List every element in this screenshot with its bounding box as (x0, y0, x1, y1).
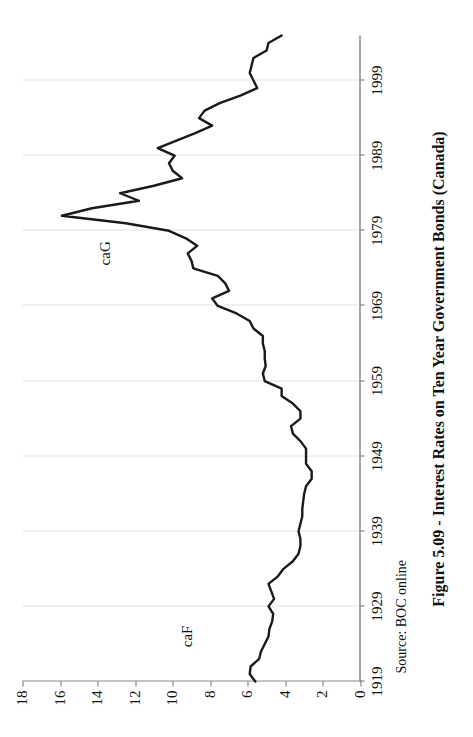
x-axis-tick-label: 1939 (369, 516, 384, 546)
y-axis-tick-label: 18 (15, 690, 30, 705)
x-axis-tick-label: 1989 (369, 140, 384, 170)
x-axis-tick-label: 1949 (369, 441, 384, 471)
series-line-caG (22, 35, 360, 681)
y-axis-tick-label: 6 (240, 690, 255, 698)
y-axis-tick (22, 681, 23, 686)
y-axis-tick-label: 16 (52, 690, 67, 705)
y-axis-tick-label: 14 (90, 690, 105, 705)
y-axis-tick-label: 2 (315, 690, 330, 698)
x-axis-tick-label: 1999 (369, 65, 384, 95)
series-path-caG (61, 35, 311, 681)
x-axis-tick-label: 1929 (369, 591, 384, 621)
figure-title: Figure 5.09 - Interest Rates on Ten Year… (430, 0, 446, 737)
y-axis-tick-label: 0 (353, 690, 368, 698)
y-axis-tick-label: 4 (277, 690, 292, 698)
y-axis-tick-label: 8 (202, 690, 217, 698)
series-annotation-caF: caF (180, 625, 195, 647)
y-axis-tick (247, 681, 248, 686)
rotated-figure-container: 024681012141618 191919291939194919591969… (0, 0, 473, 737)
y-axis-tick (135, 681, 136, 686)
x-axis-tick-label: 1959 (369, 366, 384, 396)
source-note: Source: BOC online (394, 559, 408, 673)
y-axis-tick (285, 681, 286, 686)
y-axis-tick (97, 681, 98, 686)
y-axis-tick-label: 10 (165, 690, 180, 705)
y-axis-tick (172, 681, 173, 686)
y-axis-tick-label: 12 (127, 690, 142, 705)
x-axis-tick-label: 1919 (369, 666, 384, 696)
y-axis-tick (360, 681, 361, 686)
x-axis-tick-label: 1979 (369, 215, 384, 245)
y-axis-tick (322, 681, 323, 686)
y-axis-tick (60, 681, 61, 686)
plot-area: 024681012141618 191919291939194919591969… (22, 35, 360, 681)
y-axis-tick (210, 681, 211, 686)
x-axis-tick-label: 1969 (369, 290, 384, 320)
chart-figure: 024681012141618 191919291939194919591969… (0, 0, 473, 737)
series-annotation-caG: caG (97, 241, 112, 265)
